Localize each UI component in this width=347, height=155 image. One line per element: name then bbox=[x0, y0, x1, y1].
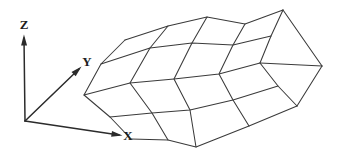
y-axis-label: Y bbox=[82, 54, 92, 69]
figure-canvas: ZYX bbox=[0, 0, 347, 155]
y-axis-line bbox=[25, 69, 79, 121]
z-axis-line bbox=[24, 38, 25, 121]
z-axis-arrowhead bbox=[21, 35, 27, 46]
surface-mesh-diagram: ZYX bbox=[0, 0, 347, 155]
x-axis-arrowhead bbox=[111, 131, 122, 137]
x-axis-label: X bbox=[123, 128, 133, 143]
z-axis-label: Z bbox=[20, 17, 29, 32]
x-axis-line bbox=[25, 121, 119, 135]
